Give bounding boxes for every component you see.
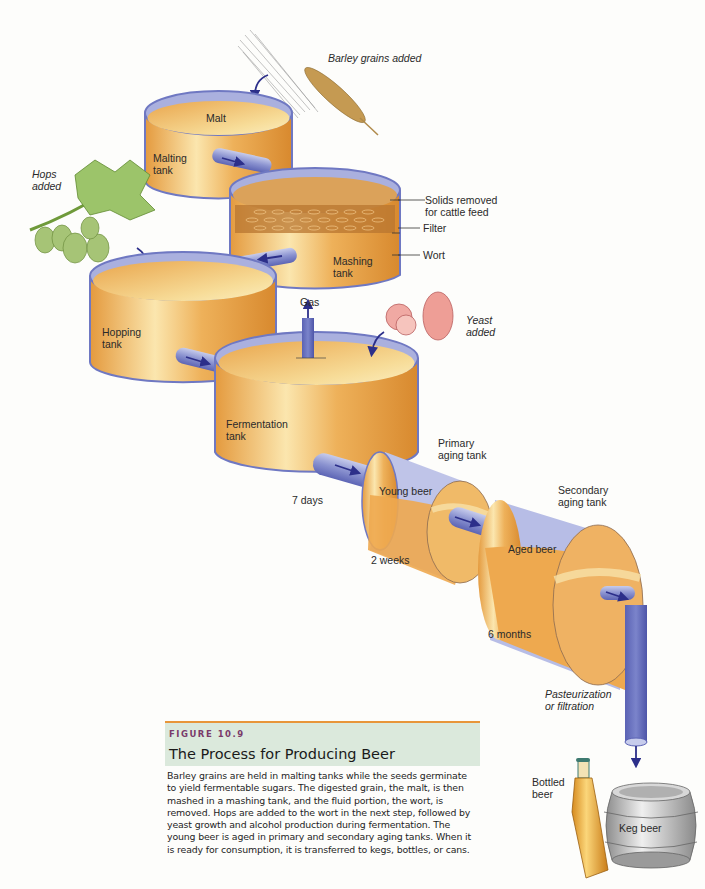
label-fermentation-tank: Fermentation tank <box>226 418 288 442</box>
label-wort: Wort <box>423 249 445 261</box>
label-keg-beer: Keg beer <box>619 822 662 834</box>
label-mashing-tank: Mashing tank <box>333 255 373 279</box>
caption-header: FIGURE 10.9 The Process for Producing Be… <box>165 723 480 766</box>
figure-caption-text: Barley grains are held in malting tanks … <box>165 766 480 856</box>
label-gas: Gas <box>300 296 319 308</box>
bottle-icon <box>572 758 608 878</box>
label-two-weeks: 2 weeks <box>371 554 410 566</box>
label-primary-aging-tank: Primary aging tank <box>438 437 486 461</box>
label-solids-removed: Solids removed for cattle feed <box>425 194 497 218</box>
label-barley-added: Barley grains added <box>328 52 421 64</box>
label-aged-beer: Aged beer <box>508 543 556 555</box>
label-pasteurization: Pasteurization or filtration <box>545 688 612 712</box>
label-six-months: 6 months <box>488 628 531 640</box>
figure-title: The Process for Producing Beer <box>169 746 474 762</box>
label-malt: Malt <box>206 112 226 124</box>
label-malting-tank: Malting tank <box>153 152 187 176</box>
label-hops-added: Hops added <box>32 168 61 192</box>
label-seven-days: 7 days <box>292 494 323 506</box>
label-yeast-added: Yeast added <box>466 314 495 338</box>
label-filter: Filter <box>423 222 446 234</box>
label-bottled-beer: Bottled beer <box>532 776 565 800</box>
label-secondary-aging-tank: Secondary aging tank <box>558 484 608 508</box>
label-hopping-tank: Hopping tank <box>102 326 141 350</box>
label-young-beer: Young beer <box>379 485 432 497</box>
mashing-leader-lines <box>398 200 425 255</box>
yeast-icon <box>386 292 453 340</box>
figure-caption: FIGURE 10.9 The Process for Producing Be… <box>165 721 480 856</box>
figure-number: FIGURE 10.9 <box>169 729 474 739</box>
